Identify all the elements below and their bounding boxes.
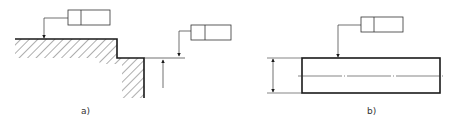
leader-arrow: [44, 18, 68, 38]
leader-arrow: [338, 25, 361, 57]
figure-b: [267, 17, 444, 93]
figure-b-label: b): [367, 106, 376, 116]
hatched-material: [15, 39, 144, 98]
figure-a-label: a): [81, 106, 90, 116]
part-rectangle: [302, 58, 440, 93]
figure-a: [15, 10, 231, 98]
tolerance-frame-2: [179, 25, 231, 56]
tolerance-frame-1: [44, 10, 110, 38]
tolerance-frame-b: [338, 17, 403, 57]
technical-drawing: [0, 0, 454, 127]
leader-arrow: [179, 31, 191, 56]
